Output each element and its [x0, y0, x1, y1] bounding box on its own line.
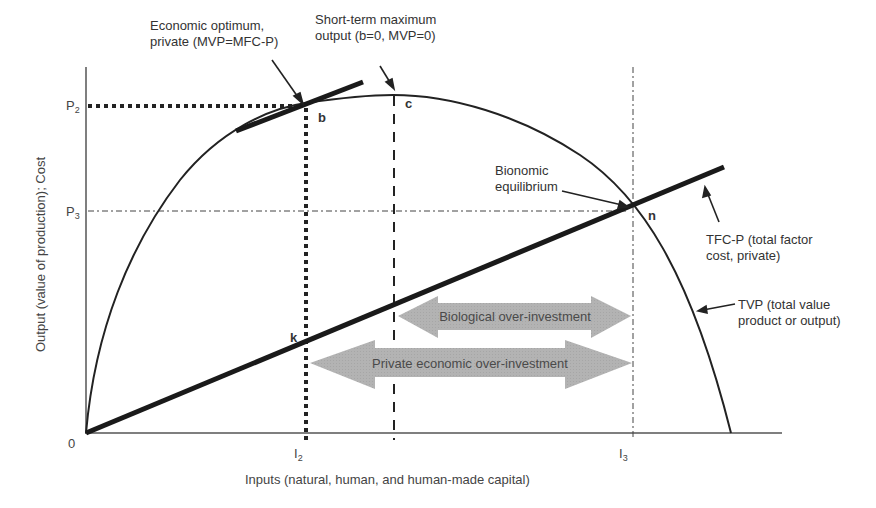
point-b-label: b [318, 110, 326, 125]
chart-canvas: Biological over-investment Private econo… [0, 0, 876, 508]
tvp-annotation: TVP (total value product or output) [738, 297, 841, 328]
tangent-line-b [236, 82, 363, 131]
x-tick-i2: I2 [294, 446, 303, 463]
origin-label: 0 [68, 436, 75, 451]
bionomic-equilibrium-annotation: Bionomic equilibrium [495, 163, 558, 194]
y-tick-p3: P3 [66, 204, 80, 221]
point-c-label: c [405, 96, 412, 111]
x-axis-title: Inputs (natural, human, and human-made c… [245, 472, 530, 487]
y-axis-title: Output (value of production); Cost [33, 157, 48, 352]
economic-optimum-annotation: Economic optimum, private (MVP=MFC-P) [150, 18, 278, 49]
private-overinvestment-label: Private economic over-investment [372, 356, 568, 371]
y-tick-p2: P2 [66, 98, 80, 115]
biological-overinvestment-label: Biological over-investment [439, 309, 591, 324]
x-tick-i3: I3 [619, 446, 628, 463]
tvp-curve [86, 95, 731, 433]
short-term-max-annotation: Short-term maximum output (b=0, MVP=0) [315, 12, 440, 43]
point-k-label: k [290, 330, 298, 345]
tfcp-annotation: TFC-P (total factor cost, private) [706, 232, 816, 263]
point-n-label: n [648, 208, 656, 223]
